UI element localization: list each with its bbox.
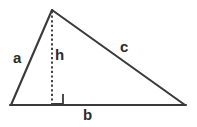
triangle-figure	[0, 0, 197, 127]
triangle-label-c: c	[120, 39, 128, 54]
right-angle-marker-icon	[53, 94, 63, 104]
triangle-label-b: b	[83, 107, 92, 122]
triangle-diagram: a h c b	[0, 0, 197, 127]
triangle-label-a: a	[13, 50, 21, 65]
triangle-label-h: h	[55, 47, 64, 62]
triangle-side-c-line	[52, 10, 185, 105]
